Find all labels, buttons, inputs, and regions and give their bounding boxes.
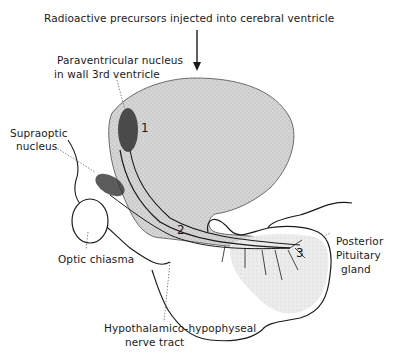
posterior-label-line3: gland [341, 263, 371, 276]
marker-3: 3 [296, 246, 304, 260]
hypothalamus-pituitary-diagram: Radioactive precursors injected into cer… [0, 0, 396, 359]
paraventricular-nucleus-cluster [118, 108, 138, 152]
tract-label-line1: Hypothalamico-hypophyseal [104, 322, 256, 335]
posterior-pituitary-region [230, 234, 329, 313]
paraventricular-label-line1: Paraventricular nucleus [57, 54, 183, 67]
marker-2: 2 [177, 223, 185, 237]
third-ventricle-region [109, 78, 294, 246]
supraoptic-label-line1: Supraoptic [10, 127, 68, 140]
optic-chiasma-label: Optic chiasma [58, 253, 134, 266]
posterior-label-line2: Pituitary [336, 249, 381, 262]
injection-label: Radioactive precursors injected into cer… [44, 12, 334, 25]
marker-1: 1 [141, 121, 149, 135]
injection-arrow [193, 30, 201, 71]
posterior-label-line1: Posterior [336, 235, 383, 248]
paraventricular-label-line2: in wall 3rd ventricle [54, 68, 160, 81]
stalk-curve [268, 202, 352, 228]
tract-label-line2: nerve tract [125, 336, 184, 349]
optic-chiasma-shape [72, 199, 108, 243]
supraoptic-label-line2: nucleus [16, 140, 57, 153]
